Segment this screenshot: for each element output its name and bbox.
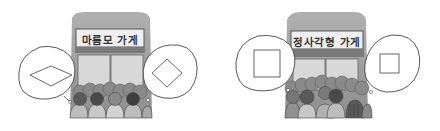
store-sign-square: 정사각형 가게 (291, 34, 363, 49)
left-thought-bubble (236, 35, 295, 91)
left-thought-bubble (19, 46, 75, 103)
right-thought-bubble (365, 35, 420, 94)
rhombus-store (19, 12, 197, 118)
right-thought-bubble (143, 45, 197, 102)
store-sign-rhombus: 마름모 가게 (76, 32, 144, 47)
square-store (236, 12, 420, 118)
diagram-scene: 마름모 가게 정사각형 가게 (0, 0, 440, 131)
illustration (0, 0, 440, 131)
